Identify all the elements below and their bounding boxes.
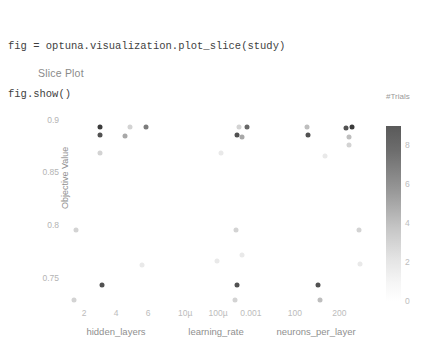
data-point[interactable] [98,125,103,130]
x-tick-label: 200 [332,308,346,318]
x-tick-label: 6 [146,308,151,318]
data-point[interactable] [128,125,133,130]
data-point[interactable] [144,125,149,130]
data-point[interactable] [244,125,249,130]
figure-title: Slice Plot [38,67,84,79]
data-point[interactable] [139,263,144,268]
data-point[interactable] [74,228,79,233]
x-axis-label: learning_rate [168,326,264,337]
y-tick-label: 0.8 [47,220,59,230]
colorbar-tick-label: 2 [405,257,410,267]
y-tick-label: 0.75 [42,273,59,283]
data-point[interactable] [218,151,223,156]
data-point[interactable] [122,133,127,138]
y-tick-label: 0.9 [47,115,59,125]
data-point[interactable] [72,297,77,302]
data-point[interactable] [305,125,310,130]
colorbar-gradient [386,126,401,301]
data-point[interactable] [306,132,311,137]
data-point[interactable] [236,125,241,130]
data-point[interactable] [98,132,103,137]
data-point[interactable] [98,151,103,156]
data-point[interactable] [350,125,355,130]
data-point[interactable] [235,283,240,288]
colorbar-tick-label: 4 [405,218,410,228]
colorbar-tick-label: 6 [405,179,410,189]
data-point[interactable] [317,297,322,302]
data-point[interactable] [240,252,245,257]
panel-learning-rate: 10µ100µ0.001 learning_rate [168,104,264,304]
x-tick-label: 4 [114,308,119,318]
data-point[interactable] [233,228,238,233]
colorbar-tick-label: 0 [405,296,410,306]
x-axis-label: hidden_layers [68,326,164,337]
x-axis-label: neurons_per_layer [268,326,364,337]
x-tick-label: 2 [82,308,87,318]
plot-area: Objective Value 0.90.850.80.75 246 hidde… [68,104,364,304]
panel-neurons-per-layer: 100200 neurons_per_layer [268,104,364,304]
colorbar-title: #Trials [386,92,410,101]
x-tick-label: 10µ [178,308,192,318]
y-tick-label: 0.85 [42,167,59,177]
panel-hidden-layers: 246 hidden_layers [68,104,164,304]
data-point[interactable] [343,126,348,131]
data-point[interactable] [323,153,328,158]
colorbar-tick-label: 8 [405,140,410,150]
data-point[interactable] [316,283,321,288]
data-point[interactable] [99,283,104,288]
x-tick-label: 100 [288,308,302,318]
colorbar: #Trials 86420 [386,104,430,304]
data-point[interactable] [240,134,245,139]
data-point[interactable] [347,143,352,148]
data-point[interactable] [346,134,351,139]
x-tick-label: 0.001 [240,308,261,318]
data-point[interactable] [357,262,362,267]
data-point[interactable] [214,258,219,263]
data-point[interactable] [356,228,361,233]
data-point[interactable] [233,297,238,302]
x-tick-label: 100µ [209,308,228,318]
slice-plot-figure: Slice Plot Objective Value 0.90.850.80.7… [0,52,430,353]
